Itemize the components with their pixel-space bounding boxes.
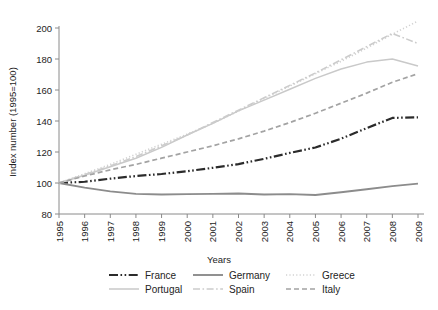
x-tick-label: 2004 — [284, 221, 295, 242]
x-tick-label: 1996 — [79, 221, 90, 242]
y-axis-title: Index number (1995=100) — [7, 67, 18, 177]
series-line-germany — [59, 183, 418, 195]
series-line-greece — [59, 21, 418, 183]
legend-label-france: France — [145, 270, 177, 281]
x-tick-label: 2005 — [310, 221, 321, 242]
legend-item-france[interactable]: France — [109, 270, 177, 281]
legend-label-spain: Spain — [229, 284, 255, 295]
x-axis-title: Years — [207, 254, 231, 265]
x-tick-label: 1997 — [105, 221, 116, 242]
x-tick-label: 2009 — [413, 221, 424, 242]
series-lines — [59, 21, 418, 195]
x-tick-label: 2002 — [233, 221, 244, 242]
legend-item-italy[interactable]: Italy — [286, 284, 340, 295]
y-tick-label: 100 — [36, 178, 52, 189]
y-tick-label: 160 — [36, 85, 52, 96]
x-tick-label: 2003 — [259, 221, 270, 242]
legend-item-greece[interactable]: Greece — [286, 270, 355, 281]
legend-item-spain[interactable]: Spain — [193, 284, 255, 295]
x-tick-label: 2000 — [182, 221, 193, 242]
x-tick-label: 1999 — [156, 221, 167, 242]
x-tick-label: 2008 — [387, 221, 398, 242]
series-line-france — [59, 117, 418, 183]
y-tick-label: 180 — [36, 54, 52, 65]
legend-item-germany[interactable]: Germany — [193, 270, 270, 281]
y-axis: 80100120140160180200 — [36, 23, 59, 220]
x-tick-label: 2007 — [361, 221, 372, 242]
legend-label-greece: Greece — [322, 270, 355, 281]
x-tick-label: 1995 — [54, 221, 65, 242]
y-tick-label: 200 — [36, 23, 52, 34]
axis-titles: YearsIndex number (1995=100) — [7, 67, 231, 265]
y-tick-label: 120 — [36, 147, 52, 158]
y-tick-label: 140 — [36, 116, 52, 127]
x-tick-label: 1998 — [130, 221, 141, 242]
series-line-spain — [59, 33, 418, 183]
chart-figure: 80100120140160180200 1995199619971998199… — [0, 0, 438, 310]
x-tick-label: 2006 — [336, 221, 347, 242]
legend-label-germany: Germany — [229, 270, 270, 281]
line-chart: 80100120140160180200 1995199619971998199… — [0, 0, 438, 310]
legend: FranceGermanyGreecePortugalSpainItaly — [109, 270, 355, 295]
legend-label-italy: Italy — [322, 284, 340, 295]
legend-label-portugal: Portugal — [145, 284, 182, 295]
y-tick-label: 80 — [41, 209, 52, 220]
x-tick-label: 2001 — [207, 221, 218, 242]
legend-item-portugal[interactable]: Portugal — [109, 284, 182, 295]
x-axis: 1995199619971998199920002001200220032004… — [54, 214, 425, 242]
